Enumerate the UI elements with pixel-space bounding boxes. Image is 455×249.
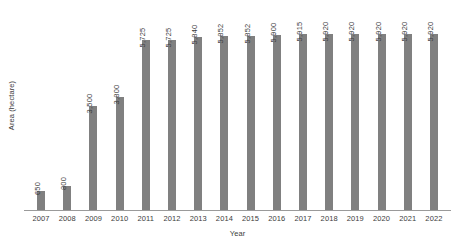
x-axis-tick-label: 2011	[133, 212, 159, 226]
x-axis-tick-label: 2017	[290, 212, 316, 226]
bar-slot: 5,852	[211, 8, 237, 210]
bar-slot: 3,800	[107, 8, 133, 210]
bar-value-label: 3,800	[112, 84, 120, 104]
bar-value-label: 800	[60, 176, 68, 189]
bar-slot: 5,920	[316, 8, 342, 210]
bar-slot: 5,900	[264, 8, 290, 210]
bar	[142, 40, 150, 210]
bar	[378, 34, 386, 210]
bar-slot: 5,725	[133, 8, 159, 210]
bar-value-label: 5,920	[348, 21, 356, 41]
x-axis-tick-label: 2008	[54, 212, 80, 226]
x-axis-tick-label: 2007	[28, 212, 54, 226]
bar-value-label: 5,900	[269, 22, 277, 42]
bar-value-label: 5,915	[295, 21, 303, 41]
bar	[430, 34, 438, 210]
x-axis-tick-label: 2022	[421, 212, 447, 226]
bar	[247, 36, 255, 210]
bar-slot: 5,852	[238, 8, 264, 210]
x-axis-tick-label: 2009	[80, 212, 106, 226]
bar	[299, 34, 307, 210]
x-axis-tick-label: 2010	[107, 212, 133, 226]
bar-value-label: 5,725	[138, 27, 146, 47]
x-axis-tick-label: 2019	[342, 212, 368, 226]
bar-slot: 5,920	[342, 8, 368, 210]
bar-slot: 5,920	[421, 8, 447, 210]
x-axis-tick-label: 2021	[395, 212, 421, 226]
x-axis-title: Year	[24, 229, 451, 238]
x-axis-tick-label: 2016	[264, 212, 290, 226]
x-axis-line	[24, 210, 451, 211]
bar-value-label: 650	[34, 181, 42, 194]
bar-chart: Area (hectare) 6508003,5003,8005,7255,72…	[0, 0, 455, 249]
plot-area: 6508003,5003,8005,7255,7255,8405,8525,85…	[24, 8, 451, 210]
bar-value-label: 5,920	[374, 21, 382, 41]
bar-slot: 650	[28, 8, 54, 210]
bar-slot: 5,725	[159, 8, 185, 210]
bar-value-label: 5,920	[322, 21, 330, 41]
bar-value-label: 5,920	[426, 21, 434, 41]
bar-value-label: 5,852	[217, 23, 225, 43]
bar	[194, 37, 202, 210]
bar	[404, 34, 412, 210]
bar-slot: 800	[54, 8, 80, 210]
bar-value-label: 3,500	[86, 93, 94, 113]
bar	[116, 97, 124, 210]
x-axis-tick-labels: 2007200820092010201120122013201420152016…	[24, 212, 451, 226]
bar-slot: 3,500	[80, 8, 106, 210]
bar-slot: 5,840	[185, 8, 211, 210]
bar-slot: 5,915	[290, 8, 316, 210]
y-axis-title: Area (hectare)	[0, 0, 24, 210]
bar-slot: 5,920	[368, 8, 394, 210]
x-axis-tick-label: 2020	[368, 212, 394, 226]
bar-value-label: 5,852	[243, 23, 251, 43]
bar	[220, 36, 228, 210]
y-axis-title-text: Area (hectare)	[8, 80, 17, 129]
x-axis-tick-label: 2013	[185, 212, 211, 226]
bar	[168, 40, 176, 210]
bars-container: 6508003,5003,8005,7255,7255,8405,8525,85…	[24, 8, 451, 210]
bar-slot: 5,920	[395, 8, 421, 210]
bar-value-label: 5,840	[191, 24, 199, 44]
x-axis-tick-label: 2018	[316, 212, 342, 226]
bar	[325, 34, 333, 210]
x-axis-tick-label: 2014	[211, 212, 237, 226]
bar-value-label: 5,920	[400, 21, 408, 41]
bar	[351, 34, 359, 210]
bar	[273, 35, 281, 210]
bar-value-label: 5,725	[165, 27, 173, 47]
x-axis-tick-label: 2012	[159, 212, 185, 226]
x-axis-tick-label: 2015	[238, 212, 264, 226]
bar	[89, 106, 97, 210]
